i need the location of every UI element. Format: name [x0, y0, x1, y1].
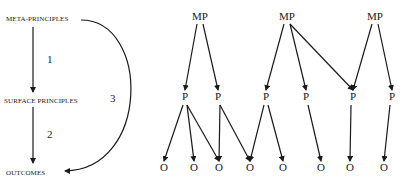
edge-mp-to-p [290, 24, 306, 90]
meta-principle-node: MP [367, 10, 383, 22]
outcome-node: O [160, 161, 168, 173]
meta-principle-node: MP [279, 10, 295, 22]
outcome-node: O [317, 161, 325, 173]
edge-p-to-o [187, 105, 219, 161]
edge-p-to-o [220, 105, 250, 161]
arrow-meta-to-outcomes-curved [65, 20, 131, 171]
meta-principle-node: MP [192, 10, 208, 22]
outcome-node: O [215, 161, 223, 173]
arrow-1-label: 1 [47, 53, 53, 65]
surface-principle-node: P [350, 90, 356, 102]
right-diagram: MPMPMPPPPPPPOOOOOOOO [160, 10, 395, 173]
edge-p-to-o [268, 105, 283, 161]
edge-p-to-o [187, 105, 194, 161]
outcome-node: O [346, 161, 354, 173]
edge-mp-to-p [290, 24, 353, 90]
arrow-3-label: 3 [110, 92, 116, 104]
surface-principle-node: P [389, 90, 395, 102]
surface-principle-node: P [303, 90, 309, 102]
outcome-node: O [190, 161, 198, 173]
edge-p-to-o [219, 105, 220, 161]
outcome-node: O [279, 161, 287, 173]
surface-principle-node: P [215, 90, 221, 102]
outcome-node: O [246, 161, 254, 173]
outcome-node: O [380, 161, 388, 173]
diagram-canvas: META-PRINCIPLES SURFACE PRINCIPLES OUTCO… [0, 0, 406, 185]
edge-p-to-o [350, 105, 351, 161]
surface-principle-node: P [263, 90, 269, 102]
outcomes-label: OUTCOMES [6, 169, 45, 177]
left-diagram: META-PRINCIPLES SURFACE PRINCIPLES OUTCO… [4, 15, 131, 177]
arrow-2-label: 2 [47, 128, 53, 140]
edge-mp-to-p [185, 24, 197, 90]
edge-p-to-o [164, 105, 183, 161]
surface-principles-label: SURFACE PRINCIPLES [4, 97, 78, 105]
edge-p-to-o [308, 105, 321, 161]
surface-principle-node: P [182, 90, 188, 102]
edge-p-to-o [384, 105, 390, 161]
edge-mp-to-p [378, 24, 392, 90]
meta-principles-label: META-PRINCIPLES [6, 15, 68, 23]
edge-mp-to-p [266, 24, 284, 90]
edge-mp-to-p [353, 24, 372, 90]
edge-mp-to-p [203, 24, 218, 90]
edge-p-to-o [250, 105, 264, 161]
